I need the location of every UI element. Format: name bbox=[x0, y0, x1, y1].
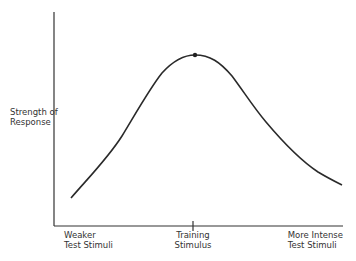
x-label-training-line-1: Training bbox=[163, 230, 223, 240]
x-label-intense: More Intense Test Stimuli bbox=[288, 230, 343, 250]
x-label-weaker: Weaker Test Stimuli bbox=[64, 230, 113, 250]
x-label-training: Training Stimulus bbox=[163, 230, 223, 250]
x-label-training-line-2: Stimulus bbox=[163, 240, 223, 250]
x-label-intense-line-2: Test Stimuli bbox=[288, 240, 343, 250]
x-label-weaker-line-1: Weaker bbox=[64, 230, 113, 240]
y-label-line-1: Strength of bbox=[10, 107, 58, 117]
y-label-line-2: Response bbox=[10, 117, 58, 127]
x-label-weaker-line-2: Test Stimuli bbox=[64, 240, 113, 250]
peak-point bbox=[193, 53, 197, 57]
generalization-curve bbox=[71, 55, 342, 198]
chart-canvas bbox=[0, 0, 356, 261]
x-label-intense-line-1: More Intense bbox=[288, 230, 343, 240]
y-axis-label: Strength of Response bbox=[10, 107, 58, 127]
